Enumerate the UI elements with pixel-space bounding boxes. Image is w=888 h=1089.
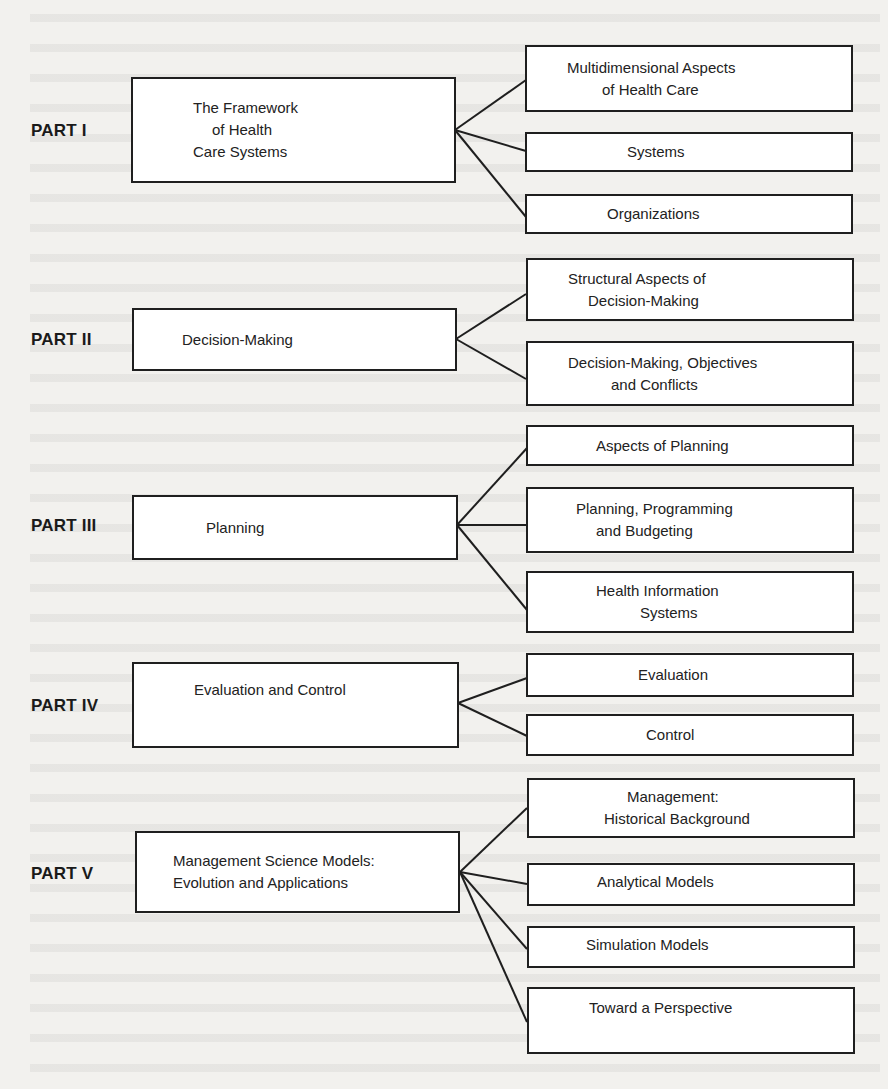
part-5-title-box: Management Science Models: Evolution and… (135, 831, 460, 913)
topic-box: Structural Aspects of Decision-Making (526, 258, 854, 321)
box-text-line: of Health Care (567, 79, 851, 101)
part-4-title-box: Evaluation and Control (132, 662, 459, 748)
box-text-line: Aspects of Planning (596, 435, 852, 457)
part-2-title-box: Decision-Making (132, 308, 457, 371)
box-text-line: Historical Background (604, 808, 853, 830)
box-text-line: Evaluation and Control (194, 679, 457, 701)
part-1-label: PART I (31, 121, 87, 141)
box-text-line: Care Systems (193, 141, 454, 163)
box-text-line: Planning (206, 517, 456, 539)
box-text-line: of Health (193, 119, 454, 141)
box-text-line: Toward a Perspective (589, 997, 853, 1019)
topic-box: Toward a Perspective (527, 987, 855, 1054)
topic-box: Planning, Programming and Budgeting (526, 487, 854, 553)
part-3-label: PART III (31, 516, 97, 536)
box-text-line: Decision-Making (568, 290, 852, 312)
box-text-line: Systems (596, 602, 852, 624)
box-text-line: Planning, Programming (576, 498, 852, 520)
box-text-line: Analytical Models (597, 871, 853, 893)
box-text-line: Systems (627, 141, 851, 163)
box-text-line: Multidimensional Aspects (567, 57, 851, 79)
box-text-line: Simulation Models (586, 934, 853, 956)
topic-box: Simulation Models (527, 926, 855, 968)
box-text-line: Decision-Making (182, 329, 455, 351)
box-text-line: Management Science Models: (173, 850, 458, 872)
topic-box: Health Information Systems (526, 571, 854, 633)
box-text-line: Health Information (596, 580, 852, 602)
part-1-title-box: The Framework of Health Care Systems (131, 77, 456, 183)
topic-box: Systems (525, 132, 853, 172)
topic-box: Management: Historical Background (527, 778, 855, 838)
box-text-line: Management: (604, 786, 853, 808)
topic-box: Evaluation (526, 653, 854, 697)
box-text-line: Control (646, 724, 852, 746)
box-text-line: Organizations (607, 203, 851, 225)
topic-box: Analytical Models (527, 863, 855, 906)
box-text-line: The Framework (193, 97, 454, 119)
box-text-line: Evaluation (638, 664, 852, 686)
part-5-label: PART V (31, 864, 93, 884)
topic-box: Multidimensional Aspects of Health Care (525, 45, 853, 112)
topic-box: Aspects of Planning (526, 425, 854, 466)
part-2-label: PART II (31, 330, 92, 350)
topic-box: Control (526, 714, 854, 756)
box-text-line: Evolution and Applications (173, 872, 458, 894)
box-text-line: and Budgeting (576, 520, 852, 542)
topic-box: Decision-Making, Objectives and Conflict… (526, 341, 854, 406)
box-text-line: Decision-Making, Objectives (568, 352, 852, 374)
part-3-title-box: Planning (132, 495, 458, 560)
topic-box: Organizations (525, 194, 853, 234)
box-text-line: and Conflicts (568, 374, 852, 396)
box-text-line: Structural Aspects of (568, 268, 852, 290)
part-4-label: PART IV (31, 696, 98, 716)
